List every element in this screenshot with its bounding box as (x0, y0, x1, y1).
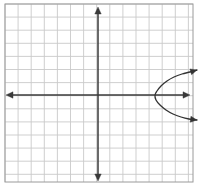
graph-figure: Rightward-opening parabola on a coordina… (0, 0, 204, 190)
coordinate-grid-plot (0, 0, 204, 190)
